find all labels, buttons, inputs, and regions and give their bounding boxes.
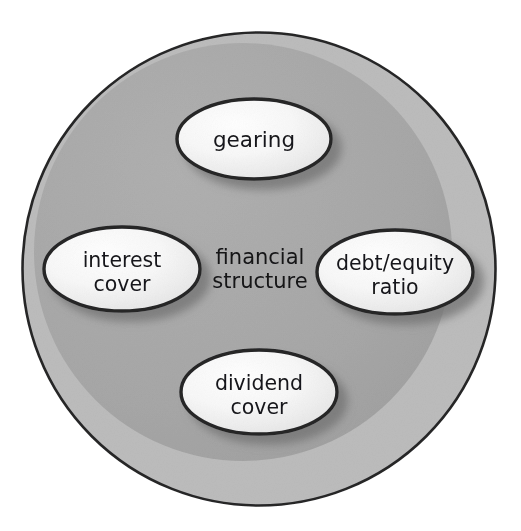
- dividend-cover-label-line2: cover: [231, 395, 289, 419]
- node-debt-equity-ratio[interactable]: debt/equity ratio: [317, 230, 473, 314]
- interest-cover-label-line1: interest: [83, 248, 162, 272]
- debt-equity-ratio-label-line2: ratio: [371, 275, 418, 299]
- center-label-group: financial structure: [212, 245, 307, 293]
- interest-cover-label-line2: cover: [94, 272, 152, 296]
- node-gearing[interactable]: gearing: [177, 99, 331, 179]
- center-label-line2: structure: [212, 269, 307, 293]
- dividend-cover-label-line1: dividend: [215, 371, 303, 395]
- node-dividend-cover[interactable]: dividend cover: [181, 350, 337, 434]
- center-label-line1: financial: [216, 245, 305, 269]
- gearing-label: gearing: [213, 127, 295, 152]
- node-interest-cover[interactable]: interest cover: [44, 227, 200, 311]
- diagram-canvas: gearing interest cover debt/equity ratio…: [0, 0, 521, 531]
- financial-structure-diagram: gearing interest cover debt/equity ratio…: [0, 0, 521, 531]
- debt-equity-ratio-label-line1: debt/equity: [336, 251, 454, 275]
